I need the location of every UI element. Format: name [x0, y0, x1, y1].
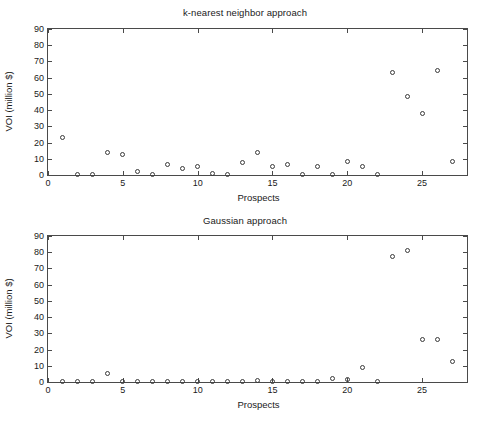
x-tick-top-gaussian: [123, 236, 124, 240]
data-point: [345, 377, 350, 382]
data-point: [285, 379, 290, 384]
y-tick-right-knn: [463, 61, 467, 62]
y-tick-left-knn: [48, 61, 52, 62]
y-tick-left-knn: [48, 78, 52, 79]
data-point: [105, 150, 110, 155]
y-tick-label-gaussian: 90: [34, 232, 44, 241]
y-tick-label-gaussian: 50: [34, 296, 44, 305]
data-point: [420, 111, 425, 116]
data-point: [435, 337, 440, 342]
data-point: [210, 379, 215, 384]
x-tick-top-knn: [347, 29, 348, 33]
x-tick-label-knn: 5: [120, 179, 125, 188]
y-tick-left-gaussian: [48, 268, 52, 269]
y-tick-right-knn: [463, 78, 467, 79]
y-tick-right-gaussian: [463, 317, 467, 318]
data-point: [75, 172, 80, 177]
data-point: [405, 94, 410, 99]
x-tick-top-knn: [48, 29, 49, 33]
data-point: [90, 379, 95, 384]
x-tick-top-knn: [198, 29, 199, 33]
data-point: [270, 164, 275, 169]
data-point: [420, 337, 425, 342]
y-tick-left-gaussian: [48, 350, 52, 351]
y-tick-left-knn: [48, 94, 52, 95]
data-point: [375, 172, 380, 177]
data-point: [180, 166, 185, 171]
figure: k-nearest neighbor approach 010203040506…: [0, 0, 490, 425]
data-point: [255, 150, 260, 155]
data-point: [60, 135, 65, 140]
y-tick-right-knn: [463, 159, 467, 160]
y-tick-label-gaussian: 60: [34, 280, 44, 289]
y-tick-left-knn: [48, 45, 52, 46]
data-layer-knn: 01020304050607080900510152025: [48, 29, 467, 175]
data-point: [285, 162, 290, 167]
y-tick-left-knn: [48, 175, 52, 176]
data-layer-gaussian: 01020304050607080900510152025: [48, 236, 467, 382]
data-point: [330, 376, 335, 381]
x-tick-bottom-knn: [198, 171, 199, 175]
x-tick-top-gaussian: [272, 236, 273, 240]
data-point: [165, 379, 170, 384]
x-tick-bottom-knn: [272, 171, 273, 175]
data-point: [270, 379, 275, 384]
data-point: [210, 171, 215, 176]
chart-panel-knn: k-nearest neighbor approach 010203040506…: [0, 0, 490, 212]
x-tick-label-gaussian: 25: [417, 386, 427, 395]
x-tick-label-gaussian: 15: [267, 386, 277, 395]
data-point: [120, 152, 125, 157]
chart-title-knn: k-nearest neighbor approach: [0, 7, 490, 18]
y-tick-right-gaussian: [463, 333, 467, 334]
y-tick-right-gaussian: [463, 366, 467, 367]
data-point: [450, 359, 455, 364]
plot-area-gaussian: 01020304050607080900510152025 VOI (milli…: [47, 235, 468, 383]
x-tick-label-knn: 10: [193, 179, 203, 188]
y-tick-right-knn: [463, 143, 467, 144]
x-tick-top-gaussian: [422, 236, 423, 240]
y-tick-left-knn: [48, 126, 52, 127]
y-tick-label-knn: 90: [34, 25, 44, 34]
data-point: [435, 68, 440, 73]
x-tick-top-knn: [272, 29, 273, 33]
x-tick-bottom-knn: [347, 171, 348, 175]
x-tick-top-knn: [422, 29, 423, 33]
x-tick-label-knn: 15: [267, 179, 277, 188]
y-tick-label-knn: 20: [34, 138, 44, 147]
data-point: [135, 379, 140, 384]
x-tick-bottom-knn: [422, 171, 423, 175]
y-tick-left-gaussian: [48, 301, 52, 302]
y-tick-label-gaussian: 0: [39, 378, 44, 387]
y-tick-label-gaussian: 40: [34, 313, 44, 322]
y-tick-right-gaussian: [463, 236, 467, 237]
data-point: [120, 379, 125, 384]
chart-panel-gaussian: Gaussian approach 0102030405060708090051…: [0, 207, 490, 425]
y-tick-label-gaussian: 70: [34, 264, 44, 273]
x-tick-label-gaussian: 0: [45, 386, 50, 395]
data-point: [60, 379, 65, 384]
y-tick-label-knn: 0: [39, 171, 44, 180]
data-point: [150, 379, 155, 384]
data-point: [375, 379, 380, 384]
y-tick-left-knn: [48, 143, 52, 144]
data-point: [360, 164, 365, 169]
y-tick-label-knn: 60: [34, 73, 44, 82]
y-tick-left-gaussian: [48, 333, 52, 334]
x-tick-bottom-gaussian: [48, 378, 49, 382]
data-point: [180, 379, 185, 384]
data-point: [195, 164, 200, 169]
x-tick-label-knn: 0: [45, 179, 50, 188]
x-tick-label-knn: 20: [342, 179, 352, 188]
y-tick-right-knn: [463, 175, 467, 176]
y-tick-right-gaussian: [463, 268, 467, 269]
y-tick-right-knn: [463, 29, 467, 30]
y-tick-right-knn: [463, 94, 467, 95]
y-tick-label-gaussian: 10: [34, 361, 44, 370]
data-point: [315, 379, 320, 384]
y-axis-label-knn: VOI (million $): [3, 52, 14, 152]
x-axis-label-gaussian: Prospects: [48, 399, 469, 410]
y-tick-label-gaussian: 20: [34, 345, 44, 354]
x-tick-label-knn: 25: [417, 179, 427, 188]
y-axis-label-gaussian: VOI (million $): [3, 259, 14, 359]
y-tick-right-gaussian: [463, 350, 467, 351]
